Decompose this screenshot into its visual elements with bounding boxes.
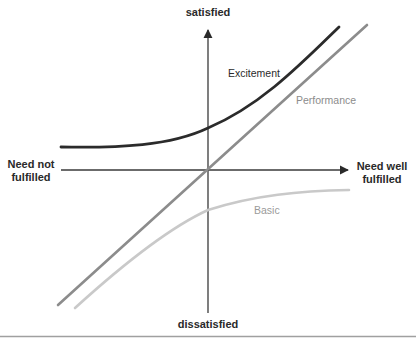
basic-curve [75, 190, 349, 308]
x-axis-left-label-line1: Need not [6, 158, 56, 171]
basic-label: Basic [254, 204, 280, 216]
x-axis-left-label: Need not fulfilled [6, 158, 56, 184]
x-axis-right-label-line1: Need well [352, 160, 412, 173]
x-axis-right-label: Need well fulfilled [352, 160, 412, 186]
x-axis-left-label-line2: fulfilled [6, 171, 56, 184]
performance-curve [58, 25, 367, 305]
y-axis-top-label: satisfied [178, 6, 238, 19]
excitement-label: Excitement [228, 67, 280, 79]
x-axis-right-label-line2: fulfilled [352, 173, 412, 186]
y-axis-bottom-label: dissatisfied [168, 318, 248, 331]
performance-label: Performance [296, 94, 356, 106]
